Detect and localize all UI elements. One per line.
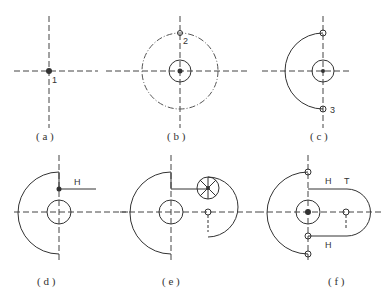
mark-1: 1 bbox=[52, 75, 57, 85]
caption-e: ( e ) bbox=[162, 275, 180, 288]
mark-3: 3 bbox=[330, 105, 335, 115]
mark-H-f-top: H bbox=[325, 176, 332, 186]
panel-f: H T H ( f ) bbox=[258, 155, 384, 288]
caption-c: ( c ) bbox=[310, 130, 328, 143]
panel-e: ( e ) bbox=[120, 155, 258, 288]
mark-H-d: H bbox=[74, 177, 81, 187]
panel-a: 1 ( a ) bbox=[14, 16, 98, 143]
caption-b: ( b ) bbox=[167, 130, 186, 143]
panel-b: 2 ( b ) bbox=[106, 16, 248, 143]
mark-2: 2 bbox=[183, 36, 188, 46]
panel-d: H ( d ) bbox=[14, 155, 130, 288]
diagram-canvas: 1 ( a ) 2 ( b ) 3 ( c ) H ( d ) bbox=[0, 0, 392, 300]
panel-c: 3 ( c ) bbox=[262, 16, 352, 143]
mark-T-f: T bbox=[344, 176, 350, 186]
mark-H-f-bottom: H bbox=[325, 240, 332, 250]
caption-f: ( f ) bbox=[328, 275, 345, 288]
point-1-icon bbox=[46, 68, 52, 74]
caption-a: ( a ) bbox=[36, 130, 54, 143]
caption-d: ( d ) bbox=[37, 275, 56, 288]
